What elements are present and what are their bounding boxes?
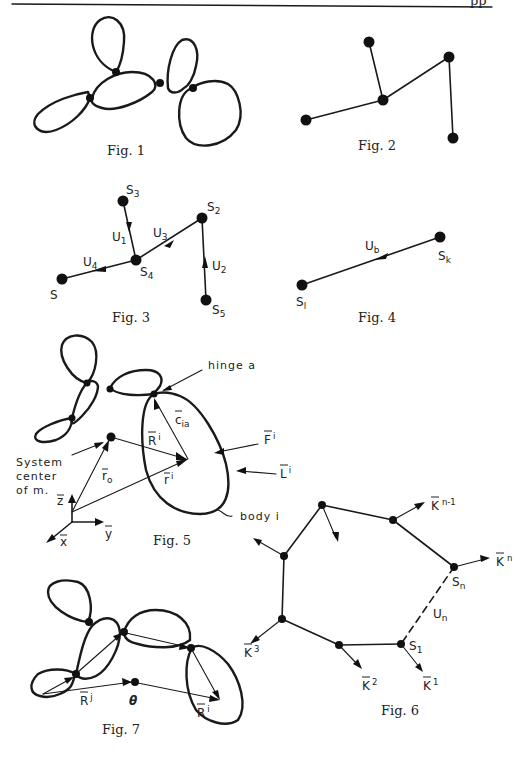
label-axis-x: x bbox=[60, 535, 67, 549]
label-s3: S3 bbox=[126, 183, 139, 199]
fig3: S3 S2 S4 S S5 U1 U3 U2 U4 Fig. 3 bbox=[50, 183, 227, 325]
label-S-n: Sn bbox=[452, 575, 465, 591]
fig1-caption: Fig. 1 bbox=[107, 143, 145, 158]
label-u1: U1 bbox=[112, 230, 127, 246]
fig6-node-s1 bbox=[397, 640, 405, 648]
fig2-node bbox=[364, 37, 375, 48]
fig2-node bbox=[444, 52, 455, 63]
header-rule bbox=[12, 4, 492, 7]
fig6-node bbox=[335, 641, 343, 649]
fig6-node bbox=[280, 552, 288, 560]
fig2-node bbox=[448, 133, 459, 144]
label-s4: S4 bbox=[140, 265, 154, 281]
label-theta: θ bbox=[129, 694, 137, 708]
label-body-i: body i bbox=[240, 510, 280, 523]
label-system-line2: center bbox=[16, 470, 57, 483]
fig3-caption: Fig. 3 bbox=[112, 310, 150, 325]
fig1-hinge bbox=[86, 94, 94, 102]
label-U-n: Un bbox=[433, 607, 448, 623]
label-system-line1: System bbox=[16, 456, 63, 469]
fig5-hinge-a bbox=[151, 391, 158, 398]
label-s: S bbox=[50, 288, 58, 302]
label-K-2: K2 bbox=[362, 677, 377, 693]
fig1-body-center bbox=[91, 72, 155, 109]
label-R-j: Rj bbox=[80, 692, 93, 708]
fig1-hinge bbox=[156, 79, 164, 87]
fig6-caption: Fig. 6 bbox=[381, 703, 419, 718]
fig3-node-s5 bbox=[201, 295, 212, 306]
label-K-n-1: Kn-1 bbox=[431, 497, 456, 513]
fig2: Fig. 2 bbox=[301, 37, 459, 154]
fig2-node bbox=[378, 95, 389, 106]
fig2-node bbox=[301, 115, 312, 126]
label-K-3: K3 bbox=[244, 644, 259, 660]
label-sl: Sl bbox=[296, 295, 306, 311]
fig5: hinge a System center of m. cia Ri Fi Li… bbox=[16, 336, 291, 549]
header-fragment: pp bbox=[470, 0, 487, 8]
fig2-caption: Fig. 2 bbox=[358, 138, 396, 153]
fig4-node-sl bbox=[297, 280, 308, 291]
fig5-caption: Fig. 5 bbox=[153, 533, 191, 548]
label-K-n: Kn bbox=[496, 553, 512, 569]
fig3-node-s2 bbox=[197, 213, 208, 224]
diagram-canvas: pp Fig. 1 Fig. 2 bbox=[0, 0, 527, 757]
fig7: Rj θ Ri Fig. 7 bbox=[31, 580, 242, 737]
fig1: Fig. 1 bbox=[34, 17, 240, 158]
arrow-u2 bbox=[202, 256, 208, 268]
label-R-i: Ri bbox=[148, 432, 161, 448]
fig3-node-s4 bbox=[131, 255, 142, 266]
label-K-1: K1 bbox=[423, 677, 438, 693]
label-sk: Sk bbox=[438, 249, 452, 265]
fig1-body-left bbox=[34, 92, 90, 132]
label-L-i: Li bbox=[280, 465, 291, 481]
fig6-node bbox=[278, 615, 286, 623]
fig4-node-sk bbox=[435, 232, 446, 243]
fig6-node bbox=[318, 501, 326, 509]
label-F-i: Fi bbox=[264, 431, 275, 447]
fig3-node-s3 bbox=[118, 196, 129, 207]
fig6-node bbox=[389, 516, 397, 524]
fig3-node-s bbox=[57, 274, 68, 285]
label-u2: U2 bbox=[212, 259, 227, 275]
label-hinge-a: hinge a bbox=[208, 359, 256, 372]
fig1-hinge bbox=[189, 84, 197, 92]
label-S-1: S1 bbox=[409, 639, 422, 655]
label-u3: U3 bbox=[153, 226, 168, 242]
fig4-caption: Fig. 4 bbox=[358, 310, 396, 325]
label-s5: S5 bbox=[212, 303, 225, 319]
fig7-caption: Fig. 7 bbox=[102, 722, 140, 737]
label-system-line3: of m. bbox=[16, 484, 49, 497]
label-R-i-fig7: Ri bbox=[197, 704, 210, 720]
fig6: Kn-1 Kn Sn Un S1 K3 K2 K1 Fig. 6 bbox=[244, 497, 512, 718]
fig6-node-sn bbox=[450, 563, 458, 571]
label-s2: S2 bbox=[207, 200, 220, 216]
arrow-u1 bbox=[126, 222, 132, 232]
fig1-hinge bbox=[112, 68, 120, 76]
label-r-o: ro bbox=[102, 469, 113, 485]
fig1-body-top bbox=[92, 17, 124, 72]
label-axis-y: y bbox=[105, 527, 112, 541]
label-ub: Ub bbox=[365, 239, 380, 255]
fig1-body-bottom-right bbox=[179, 81, 240, 146]
fig4: Ub Sk Sl Fig. 4 bbox=[296, 232, 452, 326]
label-c-ia: cia bbox=[175, 413, 190, 429]
label-axis-z: z bbox=[57, 494, 63, 508]
label-u4: U4 bbox=[83, 255, 98, 271]
